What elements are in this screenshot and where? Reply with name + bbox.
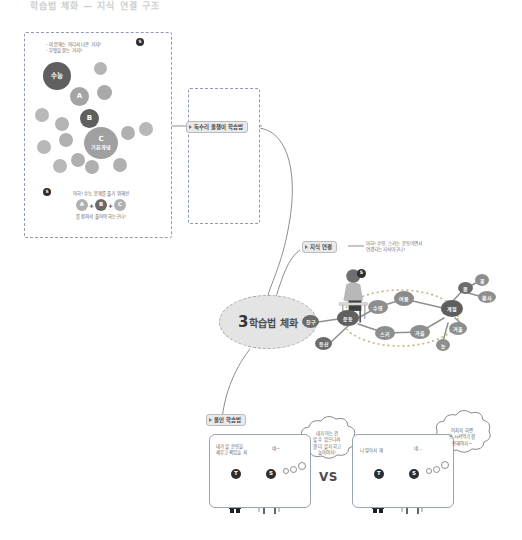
concept-node-plain-9 <box>121 126 135 140</box>
concept-node-plain-6 <box>37 140 51 154</box>
scene-left-bubble-dot-3 <box>298 462 306 470</box>
network-node-gyeoul[interactable]: 가을 <box>410 325 430 339</box>
network-node-chingu[interactable]: 친구 <box>302 315 319 328</box>
concept-node-plain-12 <box>113 158 127 172</box>
scene-right-thought-text: 어차피 하면 또 시켜먹기 뭘 안해야지~ <box>438 428 486 447</box>
concept-node-plain-1 <box>94 62 107 75</box>
knowledge-connect-note: 아하! 수영, 스키는 운동이면서 연결되는 지식이구나! <box>366 241 422 253</box>
concept-node-plain-8 <box>53 159 67 173</box>
scene-left-bubble-dot-1 <box>283 468 289 474</box>
concept-node-c[interactable]: C 기본개념 <box>84 127 118 159</box>
center-topic-label: 학습법 체화 <box>249 315 297 330</box>
network-node-yeoreum[interactable]: 여름 <box>394 291 414 306</box>
scene-left-bubble-dot-2 <box>290 466 297 473</box>
network-node-nun[interactable]: 눈 <box>436 339 450 351</box>
page-title: 학습법 체화 — 지식 연결 구조 <box>30 0 160 12</box>
network-node-suyeong[interactable]: 수영 <box>368 300 388 314</box>
concept-conclusion-top: 아하! 수능 문제를 풀기 위해선 <box>64 191 138 197</box>
network-node-hwangsa[interactable]: 황사 <box>478 291 496 303</box>
network-node-undong[interactable]: 운동 <box>337 310 359 326</box>
network-node-gyejeol[interactable]: 계절 <box>441 300 463 317</box>
concept-formula-b: B <box>95 199 107 211</box>
concept-formula-c: C <box>114 199 126 211</box>
scene-right-teacher-badge: T <box>374 469 384 479</box>
concept-figure-top-badge: S <box>136 38 144 46</box>
concept-node-plain-5 <box>59 133 73 147</box>
center-topic-number: 3 <box>238 313 248 331</box>
network-node-deungsan[interactable]: 등산 <box>315 337 332 350</box>
concept-formula-row: A + B + C <box>64 199 138 211</box>
scene-right-bubble-dot-1 <box>426 468 432 474</box>
scene-right-board-text: 니 알아서 해 <box>360 448 383 454</box>
concept-node-suneung[interactable]: 수능 <box>43 62 71 90</box>
connect-figure-badge: S <box>357 269 366 278</box>
network-node-gagyeol[interactable]: 겨울 <box>449 322 467 335</box>
concept-node-plain-4 <box>35 108 49 122</box>
concept-node-plain-10 <box>139 122 153 136</box>
network-node-seuki[interactable]: 스키 <box>375 326 395 340</box>
scene-left-thought-text: 내가 아는 건 할 수 있으니까, 뭘 더 할지 하고 놀아야지! <box>303 431 351 457</box>
network-node-kkot[interactable]: 꽃 <box>475 274 489 286</box>
scene-left-student-badge: S <box>266 469 276 479</box>
concept-node-plain-11 <box>85 160 99 174</box>
network-node-bom[interactable]: 봄 <box>458 282 473 294</box>
concept-formula-op-1: + <box>89 202 94 209</box>
scene-right-bubble-dot-2 <box>433 466 440 473</box>
scene-right-student-line: 네... <box>414 446 422 452</box>
concept-conclusion-bottom: 를 합쳐서 풀어야 하는구나! <box>64 214 138 220</box>
concept-speech-top: - 이 문제는 어디서 나온 거지? - 무엇을 묻는 거지? <box>46 42 101 54</box>
concept-formula-op-2: + <box>108 202 113 209</box>
scene-right-student-badge: S <box>409 469 419 479</box>
concept-node-a[interactable]: A <box>70 87 89 106</box>
concept-figure-bottom-badge: S <box>43 188 51 196</box>
scene-right-bubble-dot-3 <box>441 461 449 469</box>
knowledge-connect-label[interactable]: 지식 연결 <box>302 241 337 253</box>
scene-left-board-text: 내가 할 분량을 세우고 책임을 져 <box>216 444 247 456</box>
vs-label: VS <box>319 470 338 484</box>
scene-left-teacher-badge: T <box>231 469 241 479</box>
allin-method-label[interactable]: 올인 학습법 <box>206 414 246 426</box>
eagle-panel <box>188 88 260 224</box>
concept-node-plain-7 <box>71 153 85 167</box>
scene-left-student-line: 네~ <box>272 446 280 452</box>
eagle-method-label[interactable]: 독수리 올챙이 학습법 <box>186 121 248 133</box>
concept-formula-a: A <box>76 199 88 211</box>
concept-node-b[interactable]: B <box>80 109 99 128</box>
concept-node-plain-2 <box>97 85 112 100</box>
concept-node-plain-3 <box>55 117 69 131</box>
